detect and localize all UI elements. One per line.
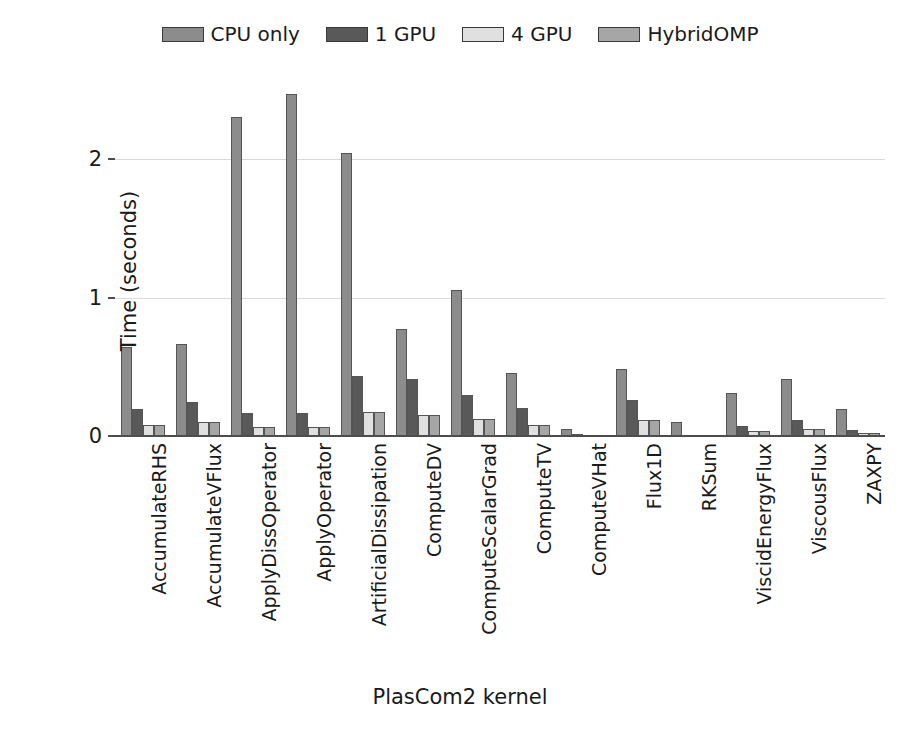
bar[interactable]	[407, 379, 418, 437]
bar[interactable]	[616, 369, 627, 437]
y-tick-label: 1	[62, 288, 102, 309]
x-tick-label: ComputeScalarGrad	[480, 443, 499, 635]
bar-group	[561, 77, 605, 437]
x-tick-label: ViscidEnergyFlux	[755, 443, 774, 605]
x-tick-label: ArtificialDissipation	[370, 443, 389, 626]
x-tick-label: ComputeVHat	[590, 443, 609, 576]
bar[interactable]	[297, 413, 308, 437]
bar-group	[506, 77, 550, 437]
bar[interactable]	[517, 408, 528, 437]
x-tick-label: ComputeTV	[535, 443, 554, 554]
chart-legend: CPU only1 GPU4 GPUHybridOMP	[0, 24, 920, 44]
bar[interactable]	[132, 409, 143, 437]
bar-group	[781, 77, 825, 437]
legend-label: 1 GPU	[375, 24, 436, 44]
bar[interactable]	[341, 153, 352, 437]
bar-group	[286, 77, 330, 437]
bar[interactable]	[286, 94, 297, 437]
bar-group	[451, 77, 495, 437]
legend-label: CPU only	[211, 24, 300, 44]
bar[interactable]	[187, 402, 198, 437]
x-axis-tick-labels: AccumulateRHSAccumulateVFluxApplyDissOpe…	[115, 443, 885, 643]
y-axis-title: Time (seconds)	[117, 141, 141, 401]
bar[interactable]	[396, 329, 407, 437]
y-tick-label: 0	[62, 426, 102, 447]
bar[interactable]	[418, 415, 429, 437]
legend-label: 4 GPU	[511, 24, 572, 44]
bar-group	[616, 77, 660, 437]
bar-chart-figure: CPU only1 GPU4 GPUHybridOMP 012 Time (se…	[0, 0, 920, 742]
legend-swatch-icon	[462, 27, 504, 42]
legend-label: HybridOMP	[647, 24, 758, 44]
x-tick-label: AccumulateVFlux	[205, 443, 224, 608]
y-tick-mark	[108, 297, 115, 299]
x-tick-label: AccumulateRHS	[150, 443, 169, 595]
legend-swatch-icon	[326, 27, 368, 42]
bar-group	[836, 77, 880, 437]
bar[interactable]	[242, 413, 253, 437]
legend-item-1[interactable]: 1 GPU	[326, 24, 436, 44]
y-tick-label: 2	[62, 149, 102, 170]
x-axis-title: PlasCom2 kernel	[0, 685, 920, 709]
legend-item-3[interactable]: HybridOMP	[598, 24, 758, 44]
bar-group	[341, 77, 385, 437]
bar[interactable]	[781, 379, 792, 437]
bar-group	[726, 77, 770, 437]
legend-item-2[interactable]: 4 GPU	[462, 24, 572, 44]
x-tick-label: Flux1D	[645, 443, 664, 509]
x-tick-label: RKSum	[700, 443, 719, 511]
legend-item-0[interactable]: CPU only	[162, 24, 300, 44]
x-tick-label: ApplyOperator	[315, 443, 334, 582]
bar[interactable]	[506, 373, 517, 437]
bar-group	[231, 77, 275, 437]
x-axis-line	[115, 435, 885, 437]
bar[interactable]	[451, 290, 462, 437]
bar[interactable]	[726, 393, 737, 437]
x-tick-label: ApplyDissOperator	[260, 443, 279, 621]
bars-layer	[115, 77, 885, 437]
bar[interactable]	[374, 412, 385, 437]
x-tick-label: ZAXPY	[865, 443, 884, 505]
bar-group	[671, 77, 715, 437]
bar[interactable]	[462, 395, 473, 437]
bar[interactable]	[352, 376, 363, 437]
bar[interactable]	[836, 409, 847, 437]
bar[interactable]	[627, 400, 638, 437]
bar[interactable]	[429, 415, 440, 437]
bar-group	[176, 77, 220, 437]
x-tick-label: ViscousFlux	[810, 443, 829, 554]
x-tick-label: ComputeDV	[425, 443, 444, 557]
y-tick-mark	[108, 435, 115, 437]
plot-area: 012 Time (seconds)	[115, 77, 885, 437]
y-tick-mark	[108, 158, 115, 160]
bar[interactable]	[176, 344, 187, 437]
bar-group	[396, 77, 440, 437]
legend-swatch-icon	[598, 27, 640, 42]
bar[interactable]	[231, 117, 242, 437]
legend-swatch-icon	[162, 27, 204, 42]
bar[interactable]	[363, 412, 374, 437]
